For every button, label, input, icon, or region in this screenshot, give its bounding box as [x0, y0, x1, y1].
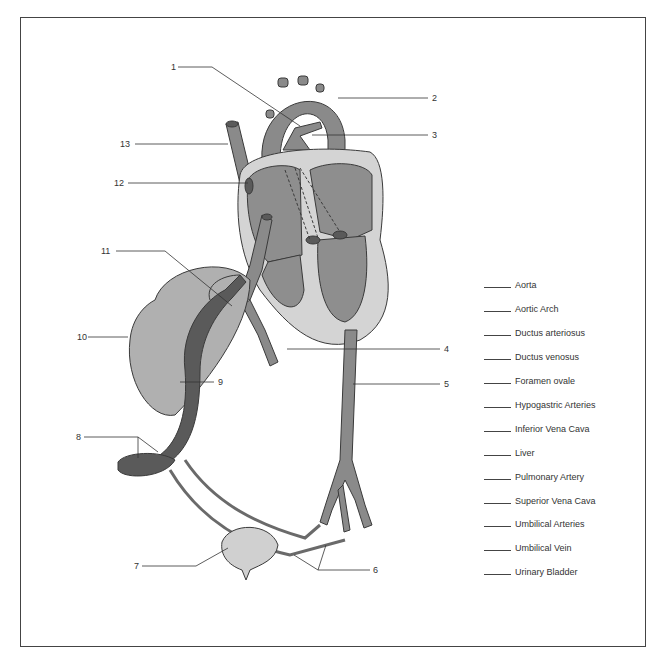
answer-blank[interactable]: [484, 526, 511, 527]
answer-blank[interactable]: [484, 335, 511, 336]
answer-blank[interactable]: [484, 311, 511, 312]
callout-9: 9: [218, 377, 223, 387]
answer-blank[interactable]: [484, 503, 511, 504]
key-item-aorta[interactable]: Aorta: [484, 280, 634, 291]
answer-blank[interactable]: [484, 383, 511, 384]
key-item-ductus-arteriosus[interactable]: Ductus arteriosus: [484, 328, 634, 339]
callout-4: 4: [444, 344, 449, 354]
callout-1: 1: [171, 62, 176, 72]
answer-blank[interactable]: [484, 479, 511, 480]
key-item-urinary-bladder[interactable]: Urinary Bladder: [484, 567, 634, 578]
key-item-pulmonary-artery[interactable]: Pulmonary Artery: [484, 472, 634, 483]
answer-blank[interactable]: [484, 574, 511, 575]
key-item-inferior-vena-cava[interactable]: Inferior Vena Cava: [484, 424, 634, 435]
callout-7: 7: [134, 561, 139, 571]
answer-blank[interactable]: [484, 287, 511, 288]
answer-blank[interactable]: [484, 550, 511, 551]
answer-blank[interactable]: [484, 455, 511, 456]
key-item-ductus-venosus[interactable]: Ductus venosus: [484, 352, 634, 363]
key-item-umbilical-vein[interactable]: Umbilical Vein: [484, 543, 634, 554]
answer-blank[interactable]: [484, 431, 511, 432]
callout-10: 10: [77, 332, 87, 342]
key-item-hypogastric-arteries[interactable]: Hypogastric Arteries: [484, 400, 634, 411]
callout-12: 12: [114, 178, 124, 188]
answer-blank[interactable]: [484, 359, 511, 360]
umbilical-cord: [118, 453, 175, 476]
umbilical-artery-2: [185, 460, 320, 538]
callout-5: 5: [444, 379, 449, 389]
callout-8: 8: [76, 432, 81, 442]
callout-3: 3: [432, 130, 437, 140]
key-item-aortic-arch[interactable]: Aortic Arch: [484, 304, 634, 315]
key-item-liver[interactable]: Liver: [484, 448, 634, 459]
answer-blank[interactable]: [484, 407, 511, 408]
urinary-bladder: [222, 527, 278, 580]
key-item-foramen-ovale[interactable]: Foramen ovale: [484, 376, 634, 387]
pulmonary-trunk: [283, 122, 322, 150]
callout-11: 11: [101, 246, 110, 256]
descending-aorta: [320, 330, 372, 528]
callout-13: 13: [120, 139, 130, 149]
callout-2: 2: [432, 93, 437, 103]
key-item-superior-vena-cava[interactable]: Superior Vena Cava: [484, 496, 634, 507]
callout-6: 6: [373, 565, 378, 575]
key-item-umbilical-arteries[interactable]: Umbilical Arteries: [484, 519, 634, 530]
